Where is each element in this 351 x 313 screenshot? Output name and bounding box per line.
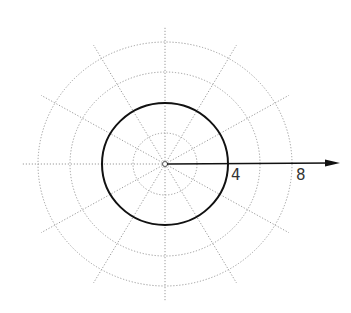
polar-grid-svg (0, 0, 351, 313)
polar-axis-line (167, 163, 332, 164)
polar-axis (163, 160, 341, 167)
pole-icon (163, 162, 168, 167)
polar-diagram: 4 8 (0, 0, 351, 313)
arrowhead-icon (325, 160, 340, 167)
axis-label-4: 4 (231, 168, 241, 183)
axis-label-8: 8 (296, 168, 306, 183)
